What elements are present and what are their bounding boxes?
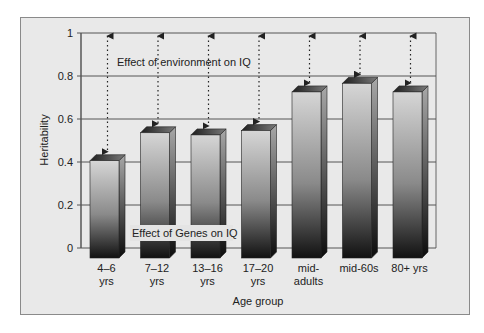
x-tick-label: 7–12 [145,262,169,274]
y-tick-label: 0.4 [58,156,73,168]
x-tick-label: adults [294,275,324,287]
x-tick-label: yrs [200,275,215,287]
x-tick-label: 80+ yrs [391,262,428,274]
x-tick-label: 4–6 [97,262,115,274]
bar [242,36,277,258]
genes-effect-label: Effect of Genes on IQ [132,227,238,239]
x-axis-title: Age group [233,295,284,307]
environment-effect-label: Effect of environment on IQ [117,56,251,68]
y-tick-label: 0.6 [58,113,73,125]
bar [393,36,428,258]
x-tick-label: 17–20 [243,262,274,274]
x-tick-label: yrs [150,275,165,287]
bar [90,36,125,258]
x-tick-label: mid-60s [339,262,379,274]
bar [343,36,378,258]
x-tick-label: yrs [99,275,114,287]
bars [90,36,428,258]
x-tick-label: 13–16 [192,262,223,274]
bar-chart: 00.20.40.60.81Heritability4–6yrs7–12yrs1… [0,0,484,333]
y-tick-label: 0.2 [58,199,73,211]
y-tick-label: 0 [67,242,73,254]
y-tick-label: 1 [67,27,73,39]
bar [191,36,226,258]
bar [141,36,176,258]
y-tick-label: 0.8 [58,70,73,82]
x-tick-label: mid- [298,262,320,274]
x-tick-label: yrs [251,275,266,287]
bar [292,36,327,258]
y-axis-title: Heritability [38,114,50,166]
